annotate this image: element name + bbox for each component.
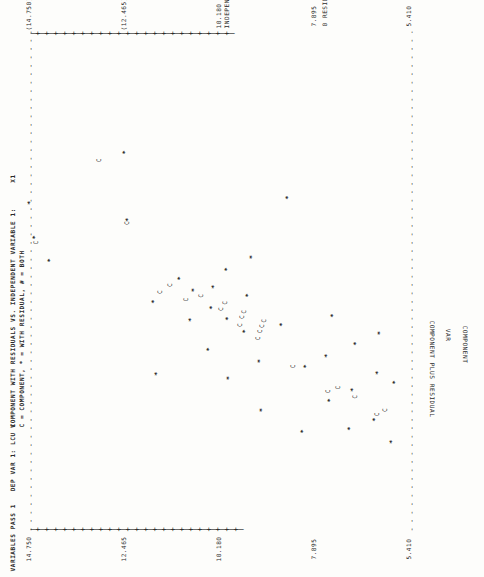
y-tick-right-1: 7.895: [309, 5, 316, 26]
data-point: C: [197, 293, 203, 297]
data-point: *: [205, 347, 211, 351]
y-tick-right-4: (14.750): [24, 0, 31, 30]
data-point: *: [248, 255, 254, 259]
data-point: *: [326, 398, 332, 402]
data-point: C: [351, 394, 357, 398]
data-point: C: [123, 221, 129, 225]
data-point: *: [244, 293, 250, 297]
data-point: *: [302, 364, 308, 368]
data-point: C: [381, 408, 387, 412]
data-point: *: [349, 387, 355, 391]
data-point: *: [176, 276, 182, 280]
data-point: C: [238, 315, 244, 319]
header-line-2: COMPONENT WITH RESIDUALS VS. INDEPENDENT…: [8, 174, 15, 427]
data-point: *: [352, 341, 358, 345]
data-point: *: [121, 150, 127, 154]
y-tick-right-2: 10.180: [214, 3, 221, 28]
data-point: *: [284, 195, 290, 199]
data-point: C: [166, 283, 172, 287]
plot-border-right: | + | + | + | + | + | + | + | + | + | + …: [30, 30, 412, 35]
data-point: *: [374, 370, 380, 374]
y-axis-label-primary: COMPONENT PLUS RESIDUAL: [428, 320, 435, 417]
data-point: *: [190, 288, 196, 292]
data-point: *: [153, 371, 159, 375]
data-point: C: [182, 297, 188, 301]
header-line-1: VARIABLES PASS 1 DEP VAR 1: LCU V: [8, 423, 15, 571]
data-point: C: [334, 385, 340, 389]
y-tick-right-0: 5.410: [404, 5, 411, 26]
data-point: *: [376, 331, 382, 335]
data-point: C: [32, 240, 38, 244]
data-point: *: [187, 317, 193, 321]
data-point: C: [256, 329, 262, 333]
data-point: *: [224, 316, 230, 320]
data-point: *: [241, 329, 247, 333]
y-tick-2: 10.180: [214, 536, 221, 561]
data-point: C: [156, 290, 162, 294]
plot-page: VARIABLES PASS 1 DEP VAR 1: LCU V COMPON…: [0, 0, 484, 577]
data-point: C: [258, 324, 264, 328]
data-point: C: [289, 364, 295, 368]
x-axis-label: INDEPENDENT VARIABLE 1: X1: [222, 0, 229, 28]
residuals-outside-note: 0 RESIDUALS OUTSIDE OF PLOT: [320, 0, 327, 26]
data-point: *: [371, 417, 377, 421]
printout-sheet: VARIABLES PASS 1 DEP VAR 1: LCU V COMPON…: [0, 0, 484, 577]
data-point: C: [217, 307, 223, 311]
data-point: *: [210, 284, 216, 288]
data-point: *: [346, 426, 352, 430]
data-point: C: [240, 309, 246, 313]
y-tick-3: 12.465: [119, 536, 126, 561]
data-point: C: [324, 389, 330, 393]
data-point: *: [278, 322, 284, 326]
y-tick-right-3: (12.465): [119, 0, 126, 30]
data-point: *: [388, 439, 394, 443]
data-point: *: [208, 305, 214, 309]
data-point: *: [31, 235, 37, 239]
data-point: *: [46, 258, 52, 262]
data-point: *: [26, 200, 32, 204]
data-point: C: [236, 323, 242, 327]
y-axis-label-var: VAR: [444, 328, 451, 341]
data-point: *: [299, 429, 305, 433]
data-point: *: [391, 380, 397, 384]
data-point: *: [329, 313, 335, 317]
data-point: C: [221, 300, 227, 304]
y-tick-0: 5.410: [404, 538, 411, 559]
data-point: C: [95, 158, 101, 162]
data-point: *: [323, 353, 329, 357]
scatter-points-layer: ************************************CCCC…: [28, 35, 410, 531]
data-point: *: [225, 376, 231, 380]
data-point: *: [150, 299, 156, 303]
data-point: *: [223, 267, 229, 271]
data-point: *: [258, 408, 264, 412]
y-tick-4: 14.750: [24, 536, 31, 561]
data-point: C: [254, 336, 260, 340]
data-point: C: [260, 318, 266, 322]
y-axis-label-component: COMPONENT: [461, 325, 468, 363]
y-tick-1: 7.895: [309, 538, 316, 559]
header-line-3: C = COMPONENT, * = WITH RESIDUAL, # = BO…: [17, 250, 24, 427]
data-point: C: [373, 412, 379, 416]
data-point: *: [256, 359, 262, 363]
